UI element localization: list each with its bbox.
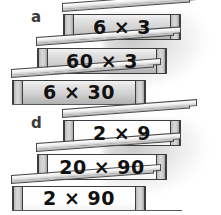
- figure-d: d 2 × 9 20 × 90: [0, 106, 221, 213]
- figure-a-staircase: 6 × 3 60 × 3 6 × 30: [0, 0, 221, 107]
- step-expression: 60 × 3: [66, 52, 138, 71]
- figure-d-step-bottom: 2 × 90: [11, 175, 161, 213]
- riser-side-panel-left: [13, 81, 23, 104]
- step-expression: 6 × 3: [93, 18, 151, 37]
- step-expression: 20 × 90: [59, 158, 145, 177]
- step-expression: 6 × 30: [43, 83, 115, 102]
- riser-side-panel-left: [13, 187, 23, 210]
- figure-a: a 6 × 3 60 × 3: [0, 0, 221, 107]
- step-expression: 2 × 90: [43, 189, 115, 208]
- figure-d-ground-line: [12, 210, 182, 211]
- step-riser-face: 2 × 90: [12, 186, 146, 211]
- figure-a-step-bottom: 6 × 30: [11, 69, 161, 107]
- step-expression: 2 × 9: [93, 124, 151, 143]
- riser-side-panel-right: [135, 81, 145, 104]
- riser-side-panel-right: [135, 187, 145, 210]
- step-riser-face: 6 × 30: [12, 80, 146, 105]
- figure-d-staircase: 2 × 9 20 × 90 2 × 90: [0, 106, 221, 213]
